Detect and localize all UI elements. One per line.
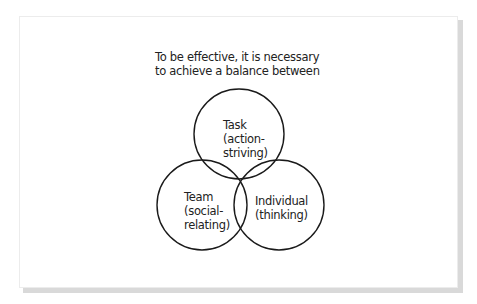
label-team-line1: Team — [184, 190, 230, 204]
label-task-line1: Task — [223, 118, 268, 132]
label-team-line3: relating) — [184, 218, 230, 232]
label-individual-line1: Individual — [255, 194, 308, 208]
label-team: Team (social- relating) — [184, 190, 230, 232]
label-individual: Individual (thinking) — [255, 194, 308, 222]
label-task-line2: (action- — [223, 132, 268, 146]
label-task-line3: striving) — [223, 146, 268, 160]
label-team-line2: (social- — [184, 204, 230, 218]
label-individual-line2: (thinking) — [255, 208, 308, 222]
label-task: Task (action- striving) — [223, 118, 268, 160]
